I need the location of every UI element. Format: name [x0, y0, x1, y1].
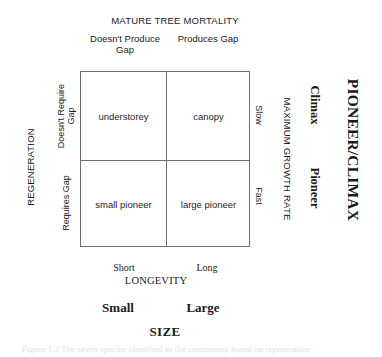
growth-axis-top-label: Slow	[254, 105, 264, 125]
strategy-axis-bottom-label: Pioneer	[308, 168, 322, 209]
matrix-cell-label: large pioneer	[181, 199, 236, 210]
bottom-axis-left-label: Short	[113, 262, 135, 274]
size-axis-left-label: Small	[102, 301, 134, 316]
top-axis-right-label: Produces Gap	[178, 34, 239, 45]
figure-diagram: MATURE TREE MORTALITY Doesn't Produce Ga…	[0, 0, 382, 357]
figure-caption: Figure 1.2 The seven species identified …	[22, 344, 368, 354]
matrix-cell-large-pioneer: large pioneer	[166, 160, 251, 248]
strategy-axis-title: PIONEER/CLIMAX	[344, 79, 362, 221]
top-axis-left-label: Doesn't Produce Gap	[90, 34, 160, 56]
matrix-cell-small-pioneer: small pioneer	[81, 160, 166, 248]
matrix-cell-canopy: canopy	[166, 72, 251, 160]
matrix-cell-label: understorey	[98, 111, 148, 122]
matrix-cell-label: small pioneer	[95, 199, 152, 210]
strategy-axis-top-label: Climax	[308, 86, 322, 125]
top-axis-title: MATURE TREE MORTALITY	[111, 16, 239, 27]
bottom-axis-right-label: Long	[196, 262, 217, 274]
size-axis-title: SIZE	[150, 325, 181, 340]
size-axis-right-label: Large	[186, 301, 219, 316]
matrix-cell-label: canopy	[193, 111, 224, 122]
left-axis-title: REGENERATION	[26, 128, 37, 206]
quadrant-matrix: understorey canopy small pioneer large p…	[80, 71, 250, 247]
growth-axis-bottom-label: Fast	[254, 187, 264, 205]
bottom-axis-title: LONGEVITY	[125, 275, 187, 287]
matrix-cell-understorey: understorey	[81, 72, 166, 160]
left-axis-bottom-label: Requires Gap	[61, 175, 71, 231]
growth-axis-title: MAXIMUM GROWTH RATE	[282, 98, 293, 221]
left-axis-top-label: Doesn't Require Gap	[56, 84, 77, 148]
